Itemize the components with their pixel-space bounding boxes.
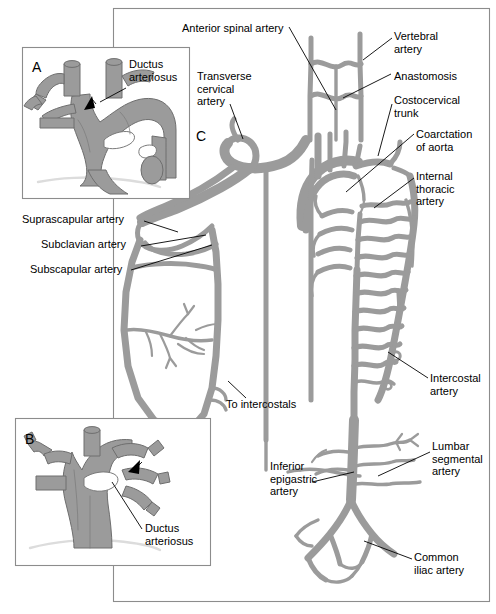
leader-costocervical-trunk (378, 104, 392, 156)
label-inferior-epigastric-artery: Inferior epigastric artery (270, 460, 317, 498)
label-ductus-arteriosus-panel-a: Ductus arteriosus (129, 58, 177, 83)
label-to-intercostals: To intercostals (226, 398, 296, 411)
leader-anastomosis (343, 74, 391, 98)
leader-to-intercostals (228, 381, 246, 398)
label-costocervical-trunk: Costocervical trunk (394, 94, 460, 119)
leader-suprascapular-artery (144, 221, 178, 232)
label-anterior-spinal-artery: Anterior spinal artery (182, 22, 284, 35)
label-lumbar-segmental-artery: Lumbar segmental artery (432, 440, 483, 478)
label-vertebral-artery: Vertebral artery (394, 30, 438, 55)
label-ductus-arteriosus-panel-b: Ductus arteriosus (145, 522, 193, 547)
label-coarctation-of-aorta: Coarctation of aorta (416, 128, 472, 153)
label-intercostal-artery: Intercostal artery (430, 372, 481, 397)
leader-intercostal-artery (388, 352, 428, 378)
label-subscapular-artery: Subscapular artery (30, 263, 122, 276)
label-anastomosis: Anastomosis (394, 70, 457, 83)
leader-vertebral-artery (363, 38, 392, 60)
label-common-iliac-artery: Common iliac artery (414, 551, 464, 576)
label-transverse-cervical-artery: Transverse cervical artery (197, 70, 252, 108)
panel-a-letter: A (32, 59, 42, 75)
panel-b-letter: B (25, 431, 34, 447)
label-subclavian-artery: Subclavian artery (41, 238, 126, 251)
leader-common-iliac-artery (364, 541, 412, 559)
label-suprascapular-artery: Suprascapular artery (22, 213, 124, 226)
panel-c-letter: C (196, 128, 206, 144)
label-internal-thoracic-artery: Internal thoracic artery (416, 170, 455, 208)
